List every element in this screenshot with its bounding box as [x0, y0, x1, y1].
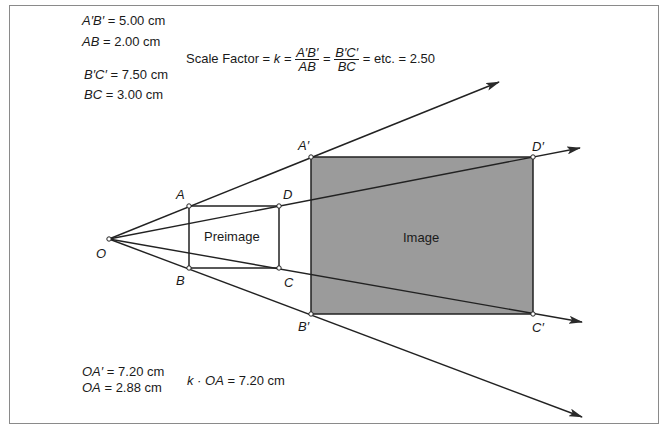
point-d-prime — [531, 155, 535, 159]
equals-sign: = — [284, 51, 292, 66]
scale-factor-formula: Scale Factor = k = A′B′ AB = B′C′ BC = e… — [186, 46, 435, 73]
measure-oa-prime: OA′ = 7.20 cm — [82, 364, 164, 380]
label: OA — [82, 380, 101, 395]
value: = 5.00 cm — [108, 13, 165, 28]
point-b — [187, 266, 191, 270]
point-d — [277, 204, 281, 208]
label-c-prime: C′ — [532, 320, 544, 336]
label: B′C′ — [84, 67, 107, 82]
measure-k-oa: k · OA = 7.20 cm — [187, 373, 285, 389]
value: = 3.00 cm — [106, 87, 163, 102]
measure-oa: OA = 2.88 cm — [82, 380, 162, 396]
image-label: Image — [403, 230, 439, 246]
label-b: B — [176, 273, 185, 289]
label: k · OA — [187, 373, 224, 388]
measure-a-prime-b-prime: A′B′ = 5.00 cm — [82, 13, 165, 29]
label: A′B′ — [82, 13, 104, 28]
denominator: AB — [295, 60, 319, 73]
label: BC — [84, 87, 102, 102]
point-c — [277, 266, 281, 270]
scale-factor-value: = etc. = 2.50 — [363, 51, 435, 66]
label-c: C — [284, 275, 293, 291]
fraction-bc: B′C′ BC — [334, 46, 359, 73]
value: = 2.88 cm — [104, 380, 161, 395]
label-a-prime: A′ — [298, 138, 309, 154]
label-d: D — [283, 187, 292, 203]
scale-factor-prefix: Scale Factor = — [186, 51, 270, 66]
fraction-ab: A′B′ AB — [295, 46, 319, 73]
point-b-prime — [309, 312, 313, 316]
label-a: A — [176, 187, 185, 203]
equals-sign: = — [323, 51, 331, 66]
measure-ab: AB = 2.00 cm — [82, 34, 160, 50]
label: OA′ — [82, 364, 103, 379]
denominator: BC — [334, 60, 359, 73]
label-o: O — [96, 246, 106, 262]
label: AB — [82, 34, 99, 49]
value: = 7.20 cm — [227, 373, 284, 388]
numerator: A′B′ — [295, 46, 319, 60]
value: = 2.00 cm — [103, 34, 160, 49]
value: = 7.50 cm — [111, 67, 168, 82]
point-c-prime — [531, 312, 535, 316]
label-d-prime: D′ — [532, 139, 544, 155]
point-o — [107, 237, 111, 241]
scale-factor-k: k — [274, 51, 281, 66]
measure-bc: BC = 3.00 cm — [84, 87, 163, 103]
measure-b-prime-c-prime: B′C′ = 7.50 cm — [84, 67, 168, 83]
point-a-prime — [309, 155, 313, 159]
label-b-prime: B′ — [298, 319, 309, 335]
point-a — [187, 204, 191, 208]
preimage-label: Preimage — [204, 229, 260, 245]
value: = 7.20 cm — [107, 364, 164, 379]
numerator: B′C′ — [334, 46, 359, 60]
